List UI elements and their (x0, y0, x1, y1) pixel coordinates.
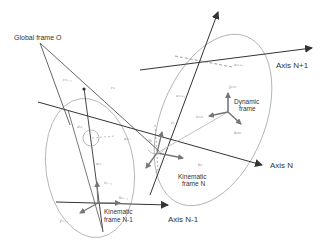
kinematic-frames-diagram: Global frame O Axis N+1 Axis N Axis N-1 … (0, 0, 328, 245)
symbol-i-n-1: iₙ₋₁ (104, 180, 112, 185)
position-vector-r-n (40, 43, 160, 152)
symbol-a-n: aₙ (96, 161, 102, 166)
symbol-a-n-plus-1: aₙ₊₁ (176, 93, 186, 98)
symbol-i-cm: iᴄₘ (196, 114, 204, 119)
position-vector-r-n-1 (40, 43, 70, 125)
kinematic-frame-n-1-label-1: Kinematic (104, 208, 133, 215)
symbol-k-n: kₙ (198, 162, 203, 167)
symbol-alpha-n-plus-1: αₙ₊₁ (234, 62, 244, 67)
kinematic-frame-n-label-2: frame N (182, 180, 205, 187)
symbol-j-cm: jᴄₘ (228, 84, 237, 89)
vector-k-n (157, 153, 183, 158)
symbol-r-n-1: rₙ₋₁ (63, 77, 72, 82)
kinematic-frame-n-label-1: Kinematic (178, 173, 207, 180)
symbol-r-n: rₙ (111, 85, 116, 90)
symbol-theta-n: θₙ (148, 138, 153, 143)
axis-n-label: Axis N (270, 161, 293, 170)
axis-n-minus-1-label: Axis N-1 (168, 215, 199, 224)
link-a-n-line (84, 88, 103, 232)
vector-i-n-1 (97, 182, 98, 203)
symbol-i-n: iₙ (171, 120, 175, 125)
kinematic-frame-n-ellipse (131, 17, 295, 223)
symbol-k-n-1: kₙ₋₁ (119, 195, 128, 200)
joint-point (82, 87, 85, 90)
kinematic-frame-n-1-label-2: frame N-1 (104, 216, 133, 223)
axis-n-plus-1-label: Axis N+1 (276, 61, 309, 70)
global-frame-label: Global frame O (14, 34, 62, 41)
link-a-n-plus-1-line (150, 12, 218, 195)
dashed-ref-left (92, 136, 115, 138)
dynamic-frame-label-2: frame (239, 105, 256, 112)
cm-vector (157, 112, 228, 153)
vector-j-n-1 (80, 203, 98, 213)
symbol-k-cm: kᴄₘ (234, 130, 242, 135)
vector-k-cm (228, 112, 241, 124)
symbol-j-n-1: jₙ₋₁ (59, 218, 68, 223)
vector-i-n (157, 132, 162, 153)
symbol-d-n: dₙ (77, 124, 83, 129)
